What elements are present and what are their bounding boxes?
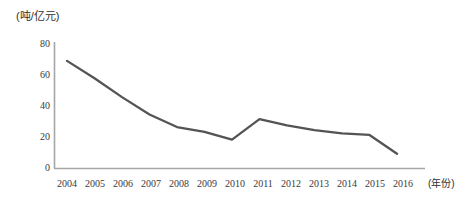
- x-tick-label-2009: 2009: [192, 178, 222, 189]
- y-tick-label-40: 40: [26, 101, 50, 111]
- x-tick-label-2007: 2007: [136, 178, 166, 189]
- y-tick-label-80: 80: [26, 39, 50, 49]
- x-tick-label-2006: 2006: [108, 178, 138, 189]
- chart-plot-area: [0, 0, 465, 203]
- x-tick-label-2004: 2004: [52, 178, 82, 189]
- line-chart: (吨/亿元) 80 60 40 20 0 2004 2005 2006 2007…: [0, 0, 465, 203]
- y-tick-label-20: 20: [26, 132, 50, 142]
- x-tick-label-2008: 2008: [164, 178, 194, 189]
- data-series-line: [67, 61, 397, 154]
- x-tick-label-2014: 2014: [332, 178, 362, 189]
- x-tick-label-2013: 2013: [304, 178, 334, 189]
- x-tick-label-2015: 2015: [360, 178, 390, 189]
- x-tick-label-2016: 2016: [388, 178, 418, 189]
- x-tick-label-2011: 2011: [248, 178, 278, 189]
- x-tick-label-2010: 2010: [220, 178, 250, 189]
- x-tick-label-2005: 2005: [80, 178, 110, 189]
- x-axis-title: (年份): [428, 178, 455, 189]
- x-tick-label-2012: 2012: [276, 178, 306, 189]
- y-tick-label-60: 60: [26, 70, 50, 80]
- y-tick-label-0: 0: [26, 163, 50, 173]
